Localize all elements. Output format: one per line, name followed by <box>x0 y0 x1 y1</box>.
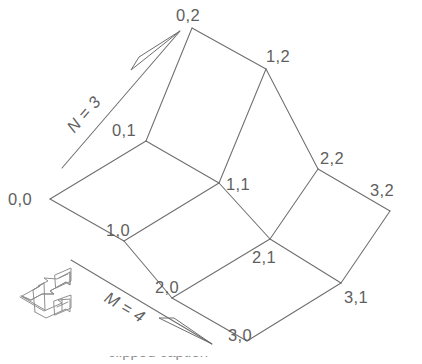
axis-arrows-group <box>62 31 212 344</box>
n-axis-shaft <box>62 31 180 168</box>
mesh-edge-21-22 <box>270 169 318 239</box>
legend-upper-box-icon <box>55 268 71 288</box>
node-label-0-1: 0,1 <box>112 121 136 139</box>
node-label-2-2: 2,2 <box>320 149 344 167</box>
mesh-edge-00-01 <box>50 141 146 199</box>
mesh-edge-01-11 <box>146 141 219 183</box>
node-label-3-2: 3,2 <box>370 181 394 199</box>
node-label-3-0: 3,0 <box>228 326 252 344</box>
m-axis-shaft <box>71 260 212 344</box>
n-axis-label: N = 3 <box>63 92 104 136</box>
mesh-edge-01-02 <box>146 28 192 141</box>
mesh-diagram-canvas: N = 3 M = 4 0,0 1,0 2,0 3,0 0,1 <box>0 0 422 364</box>
node-label-1-0: 1,0 <box>106 221 130 239</box>
m-axis-label: M = 4 <box>102 288 149 326</box>
legend-upper-tick-icon <box>59 274 68 278</box>
n-axis-arrowhead <box>131 31 180 70</box>
direction-key-icon <box>20 268 71 318</box>
node-label-1-2: 1,2 <box>266 47 290 65</box>
clipped-caption: clipped caption <box>0 356 422 364</box>
node-label-3-1: 3,1 <box>344 288 368 306</box>
node-label-2-1: 2,1 <box>252 248 276 266</box>
mesh-edge-21-31 <box>270 239 341 283</box>
caption-text: clipped caption <box>108 356 208 360</box>
node-label-1-1: 1,1 <box>226 175 250 193</box>
node-label-0-0: 0,0 <box>8 190 32 208</box>
mesh-edge-31-32 <box>341 211 390 283</box>
figure-root: N = 3 M = 4 0,0 1,0 2,0 3,0 0,1 <box>0 0 422 364</box>
m-axis-arrowhead <box>159 318 212 344</box>
mesh-edge-02-12 <box>192 28 266 69</box>
node-labels-group: 0,0 1,0 2,0 3,0 0,1 1,1 2,1 3,1 0,2 1,2 … <box>8 6 394 344</box>
mesh-edge-30-31 <box>247 283 341 341</box>
node-label-0-2: 0,2 <box>176 6 200 24</box>
mesh-edge-12-22 <box>266 69 318 169</box>
mesh-edge-10-11 <box>124 183 219 241</box>
mesh-edges-group <box>50 28 390 341</box>
mesh-edge-11-12 <box>219 69 266 183</box>
node-label-2-0: 2,0 <box>155 278 179 296</box>
